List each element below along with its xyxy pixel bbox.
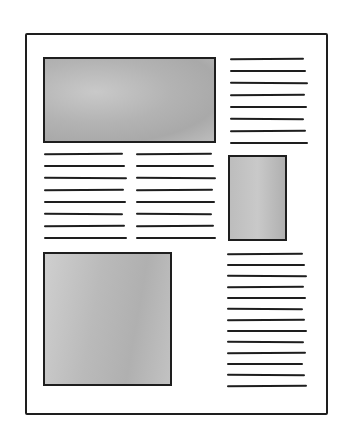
text-line xyxy=(230,70,306,72)
text-line xyxy=(230,142,308,144)
text-line xyxy=(44,165,125,167)
text-line xyxy=(44,237,127,239)
bottom-left-image-placeholder xyxy=(43,252,172,386)
text-line xyxy=(227,297,306,299)
text-line xyxy=(227,363,303,365)
text-line xyxy=(227,264,305,266)
text-line xyxy=(136,237,216,239)
text-line xyxy=(230,106,307,108)
text-line xyxy=(136,201,215,203)
top-image-placeholder xyxy=(43,57,216,143)
text-line xyxy=(227,330,307,332)
text-line xyxy=(136,165,214,167)
small-right-image-placeholder xyxy=(228,155,287,241)
text-line xyxy=(44,201,126,203)
